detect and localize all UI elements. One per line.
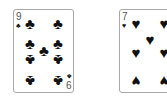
club-icon: ♣ — [53, 16, 63, 31]
heart-icon: ♥ — [132, 45, 141, 60]
club-icon: ♣ — [53, 36, 63, 51]
club-icon: ♣ — [25, 16, 35, 31]
playing-card-9-clubs[interactable]: 9 ♣ ♣ ♣ ♣ ♣ ♣ ♣ ♣ ♣ ♣ ♣ 6 — [13, 9, 74, 93]
club-icon: ♣ — [39, 43, 49, 58]
club-icon: ♣ — [25, 53, 35, 68]
club-icon: ♣ — [16, 22, 21, 29]
heart-icon: ♥ — [122, 22, 126, 29]
heart-icon: ♥ — [132, 74, 141, 89]
card-rank: 9 — [16, 12, 22, 22]
club-icon: ♣ — [53, 53, 63, 68]
club-icon: ♣ — [53, 74, 63, 89]
heart-icon: ♥ — [160, 74, 167, 89]
card-rank: 7 — [122, 12, 128, 22]
heart-icon: ♥ — [132, 16, 141, 31]
heart-icon: ♥ — [146, 32, 155, 47]
heart-icon: ♥ — [160, 45, 167, 60]
heart-icon: ♥ — [160, 16, 167, 31]
club-icon: ♣ — [25, 36, 35, 51]
card-rank-bottom: 6 — [66, 81, 72, 91]
club-icon: ♣ — [25, 74, 35, 89]
playing-card-7-hearts[interactable]: 7 ♥ ♥ ♥ ♥ ♥ ♥ ♥ ♥ — [119, 9, 167, 93]
club-icon: ♣ — [67, 73, 72, 80]
